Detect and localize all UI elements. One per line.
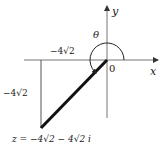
- y-axis-label: y: [111, 5, 119, 18]
- vertical-leg-label: −4√2: [3, 88, 28, 98]
- vector-z: [41, 60, 107, 128]
- point-z-label: z = −4√2 − 4√2 i: [11, 134, 91, 144]
- theta-label: θ: [93, 29, 99, 40]
- horizontal-leg-label: −4√2: [50, 46, 75, 56]
- origin-label: 0: [109, 63, 115, 74]
- complex-plane-diagram: y x 0 θ −4√2 −4√2 z = −4√2 − 4√2 i: [0, 0, 163, 154]
- x-axis-label: x: [150, 65, 157, 78]
